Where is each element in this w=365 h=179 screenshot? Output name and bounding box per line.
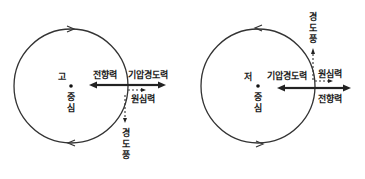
gradient-wind-label-2: 도: [122, 139, 131, 149]
low-pressure-diagram: 저 중 심 기압경도력 전향력 원심력 경 도 풍: [201, 11, 351, 147]
gradient-wind-arrowhead-icon: [311, 48, 315, 54]
centrifugal-arrowhead-icon: [141, 88, 146, 92]
rotation-arrow-bottom-icon: [256, 141, 263, 147]
gradient-wind-diagram: 고 중 심 전향력 기압경도력 원심력 경 도 풍 저 중 심 기압경도력: [0, 0, 365, 179]
coriolis-arrowhead-icon: [89, 82, 97, 89]
center-dot: [256, 84, 260, 88]
centrifugal-label: 원심력: [318, 68, 342, 79]
gradient-wind-label-1: 경: [309, 11, 317, 22]
gradient-wind-label-3: 풍: [309, 34, 317, 44]
center-word-2: 심: [254, 102, 262, 113]
high-pressure-diagram: 고 중 심 전향력 기압경도력 원심력 경 도 풍: [14, 26, 168, 160]
center-word-2: 심: [67, 102, 75, 113]
centrifugal-arrowhead-icon: [328, 79, 333, 83]
coriolis-label: 전향력: [93, 69, 117, 80]
gradient-wind-label-2: 도: [309, 23, 318, 33]
center-label: 고: [58, 72, 66, 82]
coriolis-label: 전향력: [318, 93, 342, 104]
rotation-arrow-top-icon: [255, 25, 262, 31]
pressure-gradient-arrowhead-icon: [277, 85, 285, 92]
gradient-wind-label-3: 풍: [122, 150, 130, 160]
pressure-gradient-label: 기압경도력: [128, 69, 168, 80]
center-word-1: 중: [254, 92, 262, 102]
pressure-gradient-arrowhead-icon: [158, 82, 166, 89]
centrifugal-label: 원심력: [131, 93, 155, 104]
gradient-wind-label-1: 경: [122, 127, 130, 138]
gradient-wind-arrowhead-icon: [123, 118, 127, 123]
center-label: 저: [244, 71, 252, 82]
center-dot: [69, 84, 73, 88]
coriolis-arrowhead-icon: [343, 85, 351, 92]
pressure-gradient-label: 기압경도력: [267, 70, 307, 81]
center-word-1: 중: [67, 92, 75, 102]
